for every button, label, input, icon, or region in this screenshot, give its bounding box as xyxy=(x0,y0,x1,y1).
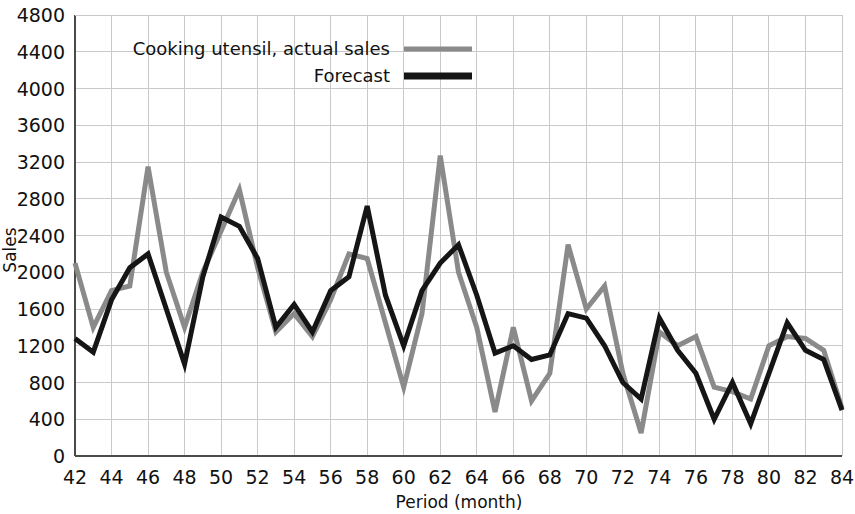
x-tick-label: 74 xyxy=(647,466,671,488)
x-axis-title: Period (month) xyxy=(396,492,523,512)
y-tick-label: 4000 xyxy=(17,78,65,100)
y-tick-label: 3200 xyxy=(17,151,65,173)
x-tick-label: 76 xyxy=(684,466,708,488)
x-tick-label: 60 xyxy=(392,466,416,488)
y-tick-label: 1600 xyxy=(17,298,65,320)
y-tick-label: 800 xyxy=(29,372,65,394)
x-tick-label: 42 xyxy=(63,466,87,488)
legend-label: Forecast xyxy=(314,65,390,86)
y-tick-label: 2400 xyxy=(17,225,65,247)
chart-legend: Cooking utensil, actual salesForecast xyxy=(133,38,472,86)
x-tick-label: 64 xyxy=(465,466,489,488)
y-tick-label: 4800 xyxy=(17,4,65,26)
x-tick-label: 80 xyxy=(757,466,781,488)
y-tick-label: 1200 xyxy=(17,335,65,357)
y-tick-label: 400 xyxy=(29,408,65,430)
x-tick-label: 50 xyxy=(209,466,233,488)
legend-label: Cooking utensil, actual sales xyxy=(133,38,390,59)
y-axis-tick-labels: 0400800120016002000240028003200360040004… xyxy=(17,4,65,467)
x-tick-label: 68 xyxy=(538,466,562,488)
x-tick-label: 72 xyxy=(611,466,635,488)
y-tick-label: 2000 xyxy=(17,261,65,283)
x-tick-label: 56 xyxy=(319,466,343,488)
y-tick-label: 0 xyxy=(53,445,65,467)
x-tick-label: 66 xyxy=(501,466,525,488)
x-axis-tick-labels: 4244464850525456586062646668707274767880… xyxy=(63,466,854,488)
x-tick-label: 44 xyxy=(99,466,123,488)
sales-forecast-line-chart: 0400800120016002000240028003200360040004… xyxy=(0,0,855,514)
x-tick-label: 78 xyxy=(720,466,744,488)
chart-container: 0400800120016002000240028003200360040004… xyxy=(0,0,855,514)
x-tick-label: 52 xyxy=(246,466,270,488)
x-tick-label: 82 xyxy=(793,466,817,488)
y-tick-label: 3600 xyxy=(17,114,65,136)
x-tick-label: 58 xyxy=(355,466,379,488)
x-tick-label: 48 xyxy=(172,466,196,488)
x-tick-label: 46 xyxy=(136,466,160,488)
x-tick-label: 70 xyxy=(574,466,598,488)
x-tick-label: 84 xyxy=(830,466,854,488)
y-tick-label: 4400 xyxy=(17,41,65,63)
y-tick-label: 2800 xyxy=(17,188,65,210)
x-tick-label: 54 xyxy=(282,466,306,488)
y-axis-title: Sales xyxy=(0,227,20,272)
data-series-group xyxy=(75,156,842,433)
x-tick-label: 62 xyxy=(428,466,452,488)
